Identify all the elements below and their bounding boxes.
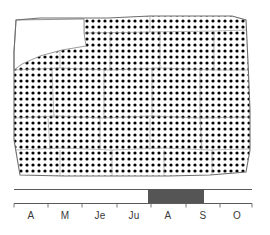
month-label-0: A	[28, 210, 35, 221]
month-label-1: M	[61, 210, 70, 221]
month-label-3: Ju	[129, 210, 140, 221]
distribution-map-svg	[0, 0, 270, 182]
phenology-timeline-panel: AMJeJuASO	[0, 182, 270, 235]
month-label-2: Je	[95, 210, 106, 221]
axis-tick-marks	[14, 204, 252, 208]
distribution-map-panel	[0, 0, 270, 182]
month-label-5: S	[200, 210, 207, 221]
month-label-4: A	[165, 210, 172, 221]
month-label-group: AMJeJuASO	[28, 210, 241, 221]
month-label-6: O	[233, 210, 241, 221]
phenology-timeline-svg: AMJeJuASO	[0, 182, 270, 235]
active-period-bar[interactable]	[148, 189, 204, 203]
figure-container: AMJeJuASO	[0, 0, 270, 235]
